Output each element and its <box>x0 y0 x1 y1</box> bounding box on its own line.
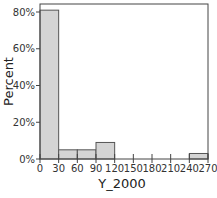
y-tick-label: 60% <box>13 43 35 54</box>
plot-frame <box>40 4 208 159</box>
y-tick-label: 80% <box>13 7 35 18</box>
x-tick-label: 150 <box>124 163 143 174</box>
x-axis-title: Y_2000 <box>97 176 146 191</box>
x-tick-label: 180 <box>142 163 161 174</box>
histogram-bar <box>189 153 208 159</box>
x-tick-label: 120 <box>105 163 124 174</box>
x-tick-label: 90 <box>90 163 103 174</box>
histogram-bar <box>77 150 96 159</box>
histogram-chart: 0%20%40%60%80% 0306090120150180210240270… <box>0 0 217 198</box>
y-axis: 0%20%40%60%80% <box>13 7 40 165</box>
x-tick-label: 240 <box>180 163 199 174</box>
y-axis-title: Percent <box>1 57 16 106</box>
x-tick-label: 270 <box>198 163 217 174</box>
x-tick-label: 60 <box>71 163 84 174</box>
x-tick-label: 210 <box>161 163 180 174</box>
y-tick-label: 20% <box>13 117 35 128</box>
x-tick-label: 30 <box>52 163 65 174</box>
histogram-bar <box>40 10 59 159</box>
histogram-bars <box>40 10 208 159</box>
x-tick-label: 0 <box>37 163 43 174</box>
y-tick-label: 0% <box>19 154 35 165</box>
histogram-bar <box>96 142 115 159</box>
y-tick-label: 40% <box>13 80 35 91</box>
histogram-bar <box>59 150 78 159</box>
